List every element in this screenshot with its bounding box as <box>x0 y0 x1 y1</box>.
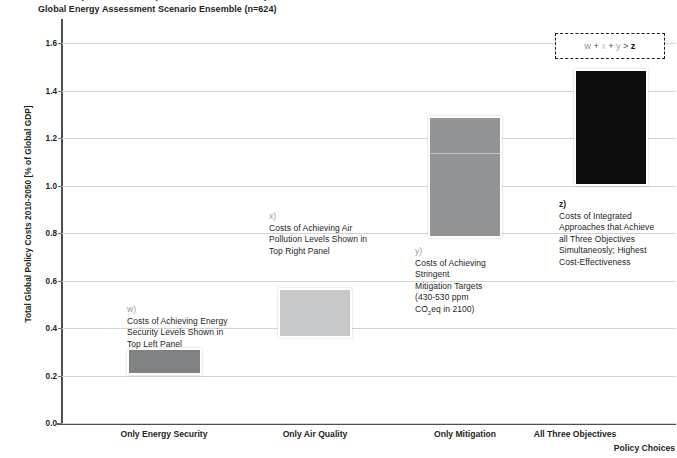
co2-text: CO <box>415 304 428 314</box>
equation-annotation-box: w + x + y > z <box>555 33 665 59</box>
ytick-mark-3 <box>58 281 62 282</box>
ytick-mark-7 <box>58 91 62 92</box>
equation-greater-than: > <box>623 41 629 51</box>
annotation-y-line-1: Costs of Achieving <box>415 258 519 270</box>
bar-only-air-quality[interactable] <box>278 288 352 338</box>
annotation-y-line-2: Stringent <box>415 269 519 281</box>
equation-plus-2: + <box>608 41 614 51</box>
annotation-x: x) Costs of Achieving Air Pollution Leve… <box>269 211 375 257</box>
annotation-x-tag: x) <box>269 211 375 223</box>
ytick-label-2: 0.4 <box>46 324 57 333</box>
ytick-mark-5 <box>58 186 62 187</box>
annotation-y-line-3: Mitigation Targets <box>415 281 519 293</box>
annotation-w-body: Costs of Achieving Energy Security Level… <box>127 316 237 351</box>
annotation-w-tag: w) <box>127 304 237 316</box>
bar-internal-gridline <box>430 153 500 154</box>
ytick-label-0: 0.0 <box>46 419 57 428</box>
ytick-mark-6 <box>58 138 62 139</box>
ytick-label-5: 1.0 <box>46 181 57 190</box>
equation-term-x: x <box>601 41 606 51</box>
chart-subtitle: Global Energy Assessment Scenario Ensemb… <box>38 4 277 14</box>
gridline-3: 0.6 <box>62 281 676 282</box>
annotation-y-line-4: (430-530 ppm <box>415 292 519 304</box>
bar-only-mitigation[interactable] <box>428 116 502 238</box>
bar-only-energy-security[interactable] <box>127 348 202 375</box>
annotation-x-body: Costs of Achieving Air Pollution Levels … <box>269 223 375 258</box>
ytick-mark-1 <box>58 376 62 377</box>
gridline-0: 0.0 <box>62 423 676 424</box>
annotation-z-tag: z) <box>559 199 662 211</box>
ytick-label-6: 1.2 <box>46 134 57 143</box>
ytick-mark-8 <box>58 43 62 44</box>
annotation-y-line-5: CO2eq in 2100) <box>415 304 519 318</box>
equation-term-w: w <box>584 41 591 51</box>
ytick-mark-0 <box>58 423 62 424</box>
annotation-z-body: Costs of Integrated Approaches that Achi… <box>559 211 662 269</box>
equation-plus-1: + <box>593 41 599 51</box>
clipped-chart-title: Comparison of Policy Costs for Different… <box>60 0 299 1</box>
ytick-label-7: 1.4 <box>46 86 57 95</box>
plot-area: 0.0 0.2 0.4 0.6 0.8 1.0 1.2 1.4 1.6 <box>62 22 676 424</box>
equation-term-y: y <box>616 41 621 51</box>
ytick-label-4: 0.8 <box>46 229 57 238</box>
equation-term-z: z <box>631 41 636 51</box>
x-axis-title: Policy Choices <box>614 443 675 453</box>
ytick-label-1: 0.2 <box>46 371 57 380</box>
ytick-mark-2 <box>58 328 62 329</box>
annotation-y-tag: y) <box>415 246 519 258</box>
annotation-z: z) Costs of Integrated Approaches that A… <box>559 199 662 269</box>
xtick-label-all-three-objectives: All Three Objectives <box>475 429 675 439</box>
annotation-y: y) Costs of Achieving Stringent Mitigati… <box>415 246 519 318</box>
y-axis-title: Total Global Policy Costs 2010-2050 [% o… <box>23 94 33 334</box>
co2-suffix: eq in 2100) <box>431 304 474 314</box>
ytick-label-8: 1.6 <box>46 39 57 48</box>
bar-all-three-objectives[interactable] <box>574 69 648 186</box>
ytick-mark-4 <box>58 233 62 234</box>
ytick-label-3: 0.6 <box>46 276 57 285</box>
annotation-w: w) Costs of Achieving Energy Security Le… <box>127 304 237 350</box>
gridline-1: 0.2 <box>62 376 676 377</box>
